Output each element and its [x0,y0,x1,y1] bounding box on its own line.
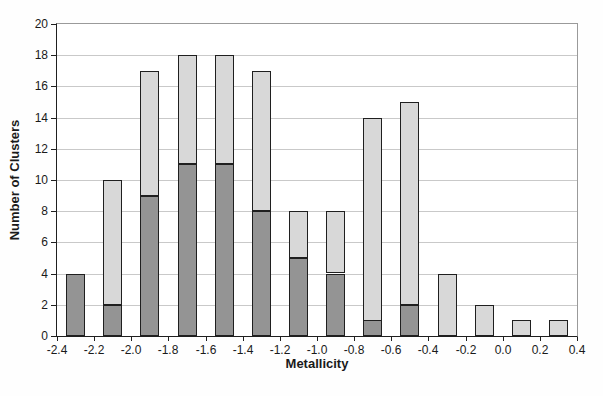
bar-segment-light [289,211,308,258]
y-axis-tick [51,211,56,212]
bar-segment-light [475,305,494,336]
gridline [57,211,577,212]
bar-segment-light [215,55,234,164]
y-axis-tick [51,118,56,119]
x-axis-tick [206,337,207,341]
y-tick-label: 16 [0,79,48,93]
x-tick-label: -1.4 [223,343,263,357]
y-tick-label: 20 [0,17,48,31]
x-axis-tick [243,337,244,341]
bar-segment-light [252,71,271,211]
gridline [57,118,577,119]
bar-segment-light [140,71,159,196]
y-axis-tick [51,180,56,181]
bar-segment-dark [326,274,345,336]
x-axis-tick [540,337,541,341]
y-axis-tick [51,24,56,25]
y-tick-label: 6 [0,235,48,249]
gridline [57,86,577,87]
gridline [57,149,577,150]
y-tick-label: 12 [0,142,48,156]
x-tick-label: -1.6 [186,343,226,357]
x-tick-label: -0.8 [334,343,374,357]
gridline [57,274,577,275]
x-tick-label: -0.4 [408,343,448,357]
bar-segment-dark [66,274,85,336]
bar-segment-light [326,211,345,273]
bar-segment-light [400,102,419,305]
y-axis-tick [51,86,56,87]
bar-segment-dark [289,258,308,336]
y-axis-tick [51,305,56,306]
chart-figure: Number of Clusters Metallicity 024681012… [0,0,603,396]
x-tick-label: -0.6 [371,343,411,357]
x-axis-tick [57,337,58,341]
x-tick-label: -2.4 [37,343,77,357]
x-tick-label: 0.4 [557,343,597,357]
x-tick-label: -0.2 [446,343,486,357]
bar-segment-light [178,55,197,164]
y-tick-label: 18 [0,48,48,62]
bar-segment-dark [215,164,234,336]
x-axis-tick [317,337,318,341]
x-tick-label: -1.2 [260,343,300,357]
x-axis-tick [354,337,355,341]
bar-segment-dark [178,164,197,336]
x-tick-label: -2.0 [111,343,151,357]
y-tick-label: 8 [0,204,48,218]
x-axis-tick [280,337,281,341]
bar-segment-light [363,118,382,321]
gridline [57,55,577,56]
x-axis-tick [503,337,504,341]
x-axis-title: Metallicity [57,356,577,371]
x-axis-tick [466,337,467,341]
x-axis-tick [131,337,132,341]
x-tick-label: 0.0 [483,343,523,357]
y-tick-label: 0 [0,329,48,343]
x-axis-tick [391,337,392,341]
bar-segment-dark [252,211,271,336]
y-tick-label: 14 [0,111,48,125]
x-axis-tick [577,337,578,341]
bar-segment-light [512,320,531,336]
bar-segment-light [103,180,122,305]
x-tick-label: -2.2 [74,343,114,357]
gridline [57,180,577,181]
y-axis-tick [51,336,56,337]
x-axis-tick [428,337,429,341]
plot-area [56,23,578,337]
x-axis-tick [94,337,95,341]
bar-segment-dark [140,196,159,336]
y-axis-tick [51,55,56,56]
bar-segment-dark [400,305,419,336]
y-axis-tick [51,242,56,243]
y-tick-label: 4 [0,267,48,281]
x-tick-label: -1.8 [148,343,188,357]
bar-segment-dark [363,320,382,336]
bar-segment-light [549,320,568,336]
x-axis-tick [168,337,169,341]
gridline [57,305,577,306]
gridline [57,242,577,243]
x-tick-label: 0.2 [520,343,560,357]
bar-segment-dark [103,305,122,336]
bar-segment-light [438,274,457,336]
y-tick-label: 2 [0,298,48,312]
y-tick-label: 10 [0,173,48,187]
y-axis-tick [51,149,56,150]
y-axis-tick [51,274,56,275]
x-tick-label: -1.0 [297,343,337,357]
